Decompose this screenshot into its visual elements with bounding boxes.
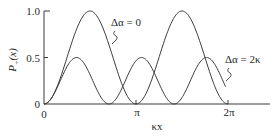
- x-tick-label-pi: π: [134, 106, 140, 118]
- y-tick-label-0: 0: [35, 98, 41, 110]
- x-tick-label-0: 0: [41, 108, 47, 120]
- chart: 1.0 0.5 0 0 π 2π κx P+(x) Δα = 0 Δα = 2κ: [0, 0, 275, 137]
- leader-delta-alpha-0: [112, 31, 117, 44]
- leader-delta-alpha-2kappa: [226, 68, 231, 81]
- series-delta-alpha-2kappa: [44, 58, 226, 105]
- x-axis-label: κx: [151, 120, 163, 132]
- y-tick-label-0.5: 0.5: [26, 52, 40, 64]
- annotation-delta-alpha-2kappa: Δα = 2κ: [225, 53, 261, 65]
- y-label-arg: (x): [6, 48, 19, 61]
- y-tick-label-1.0: 1.0: [26, 5, 40, 17]
- svg-text:P+(x): P+(x): [6, 48, 21, 73]
- y-axis-label: P+(x): [6, 48, 21, 73]
- annotation-delta-alpha-0: Δα = 0: [111, 16, 142, 28]
- x-tick-label-2pi: 2π: [223, 106, 235, 118]
